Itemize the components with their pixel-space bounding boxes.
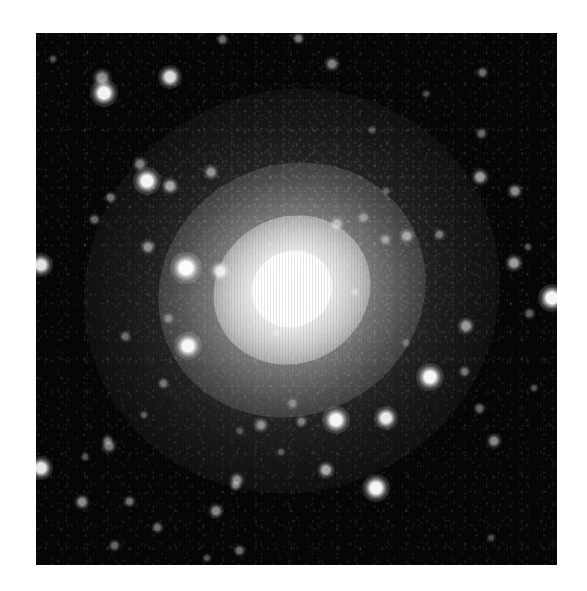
star-point-source [108, 539, 121, 552]
star-point-source [216, 33, 229, 46]
star-point-source [486, 533, 496, 543]
star-point-source [233, 544, 246, 557]
star-point-source [74, 494, 90, 510]
star-point-source [48, 54, 58, 64]
star-point-source [229, 472, 245, 488]
star-point-source [507, 183, 523, 199]
star-point-source [538, 284, 557, 313]
astronomical-image-frame [36, 33, 557, 565]
star-point-source [362, 474, 391, 503]
star-point-source [151, 521, 164, 534]
star-point-source [202, 553, 212, 563]
star-point-source [123, 495, 136, 508]
unresolved-cluster-speckle [99, 65, 495, 459]
star-point-source [36, 253, 53, 276]
star-point-source [229, 479, 242, 492]
star-point-source [505, 254, 523, 272]
star-point-source [208, 503, 224, 519]
star-point-source [317, 461, 335, 479]
star-point-source [529, 383, 539, 393]
image-page [0, 0, 587, 591]
star-point-source [292, 33, 305, 45]
star-point-source [80, 452, 90, 462]
star-point-source [523, 307, 536, 320]
star-point-source [36, 456, 53, 479]
star-point-source [523, 242, 533, 252]
